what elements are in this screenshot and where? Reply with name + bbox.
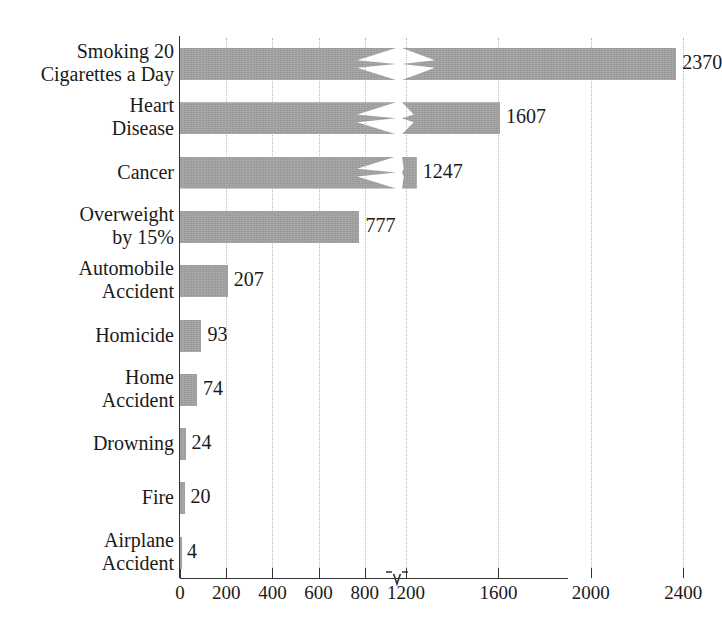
bar-right-segment[interactable] xyxy=(402,102,500,134)
x-axis-tick xyxy=(365,568,366,578)
category-label-line: Airplane xyxy=(4,529,174,552)
category-label-line: Overweight xyxy=(4,203,174,226)
x-axis-tick xyxy=(272,568,273,578)
category-label-line: Disease xyxy=(4,117,174,140)
category-label-line: Cancer xyxy=(4,161,174,184)
category-label-line: Automobile xyxy=(4,257,174,280)
bar[interactable] xyxy=(180,482,185,514)
x-axis-tick-label: 2000 xyxy=(561,582,621,604)
bar-value-label: 20 xyxy=(191,485,211,508)
x-axis-tick-label: 1600 xyxy=(468,582,528,604)
category-label: Fire xyxy=(4,486,174,509)
category-label: Homicide xyxy=(4,324,174,347)
category-label: HeartDisease xyxy=(4,94,174,140)
x-axis-tick xyxy=(591,568,592,578)
x-axis-tick xyxy=(683,568,684,578)
category-label-line: Accident xyxy=(4,552,174,575)
bar[interactable] xyxy=(180,537,182,569)
bar[interactable] xyxy=(180,428,186,460)
category-label-line: Homicide xyxy=(4,324,174,347)
category-label: AutomobileAccident xyxy=(4,257,174,303)
category-label-line: Smoking 20 xyxy=(4,40,174,63)
category-label-line: Accident xyxy=(4,280,174,303)
category-label-line: Fire xyxy=(4,486,174,509)
x-axis-tick-label: 2400 xyxy=(653,582,713,604)
bar-value-label: 93 xyxy=(207,323,227,346)
bar[interactable] xyxy=(180,374,197,406)
gridline xyxy=(591,38,592,578)
category-label: Drowning xyxy=(4,432,174,455)
x-axis-tick xyxy=(319,568,320,578)
category-label-line: Drowning xyxy=(4,432,174,455)
bar-left-segment[interactable] xyxy=(180,102,396,134)
bar-value-label: 24 xyxy=(192,431,212,454)
bar-value-label: 2370 xyxy=(682,51,722,74)
bar-value-label: 74 xyxy=(203,377,223,400)
x-axis-tick xyxy=(498,568,499,578)
bar-value-label: 1607 xyxy=(506,105,546,128)
category-label: HomeAccident xyxy=(4,366,174,412)
axis-break-icon xyxy=(386,570,408,586)
chart-title: Due to Various Hazards xyxy=(0,0,619,3)
category-label: Cancer xyxy=(4,161,174,184)
category-label-line: Home xyxy=(4,366,174,389)
bar-value-label: 777 xyxy=(365,214,395,237)
x-axis-tick xyxy=(226,568,227,578)
category-label-line: Accident xyxy=(4,389,174,412)
category-label: Smoking 20Cigarettes a Day xyxy=(4,40,174,86)
category-label: Overweightby 15% xyxy=(4,203,174,249)
bar-right-segment[interactable] xyxy=(402,157,417,189)
bar-right-segment[interactable] xyxy=(402,48,676,80)
bar-value-label: 1247 xyxy=(423,160,463,183)
bar-value-label: 4 xyxy=(187,540,197,563)
bar-left-segment[interactable] xyxy=(180,48,396,80)
bar-left-segment[interactable] xyxy=(180,157,396,189)
category-label-line: Heart xyxy=(4,94,174,117)
bar[interactable] xyxy=(180,211,359,243)
x-axis-line xyxy=(180,578,568,579)
gridline xyxy=(683,38,684,578)
bar[interactable] xyxy=(180,265,228,297)
category-label-line: by 15% xyxy=(4,226,174,249)
bar-value-label: 207 xyxy=(234,268,264,291)
x-axis-tick xyxy=(180,568,181,578)
category-label-line: Cigarettes a Day xyxy=(4,63,174,86)
bar[interactable] xyxy=(180,320,201,352)
category-label: AirplaneAccident xyxy=(4,529,174,575)
